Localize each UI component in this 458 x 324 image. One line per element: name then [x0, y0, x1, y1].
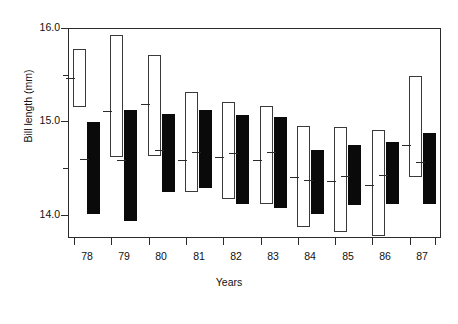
x-tick: [111, 238, 112, 245]
median-marker: [141, 104, 150, 105]
range-bar: [124, 110, 137, 221]
y-axis-title: Bill length (mm): [22, 36, 34, 176]
x-tick: [223, 238, 224, 245]
median-marker: [379, 175, 388, 176]
plot-area: [68, 28, 441, 238]
x-tick: [74, 238, 75, 245]
x-tick: [372, 238, 373, 245]
x-axis-title: Years: [0, 276, 458, 288]
x-tick-label: 84: [295, 250, 325, 262]
x-tick-label: 87: [407, 250, 437, 262]
median-marker: [155, 150, 164, 151]
x-tick-label: 81: [184, 250, 214, 262]
x-tick-label: 83: [258, 250, 288, 262]
median-marker: [290, 177, 299, 178]
x-tick: [298, 238, 299, 245]
range-bar: [423, 133, 436, 205]
range-bar: [274, 117, 287, 208]
x-tick: [410, 238, 411, 245]
range-bar: [372, 130, 385, 236]
range-bar: [236, 115, 249, 205]
range-bar: [148, 55, 161, 156]
median-marker: [416, 162, 425, 163]
median-marker: [178, 160, 187, 161]
median-marker: [229, 153, 238, 154]
range-bar: [87, 122, 100, 213]
median-marker: [365, 185, 374, 186]
x-tick-label: 86: [370, 250, 400, 262]
median-marker: [192, 152, 201, 153]
range-bar: [311, 150, 324, 213]
median-marker: [80, 159, 89, 160]
range-bar: [199, 110, 212, 187]
y-tick-label: 16.0: [16, 21, 60, 33]
y-tick-label: 14.0: [16, 208, 60, 220]
x-tick-label: 82: [221, 250, 251, 262]
range-bar: [162, 114, 175, 192]
x-tick-label: 85: [333, 250, 363, 262]
range-bar: [260, 106, 273, 205]
x-tick-label: 80: [146, 250, 176, 262]
chart-figure: Bill length (mm) 16.015.014.0 7879808182…: [0, 0, 458, 324]
x-tick-label: 79: [109, 250, 139, 262]
median-marker: [341, 176, 350, 177]
range-bar: [348, 145, 361, 206]
range-bar: [110, 35, 123, 157]
range-bar: [386, 142, 399, 205]
range-bar: [185, 92, 198, 193]
median-marker: [117, 160, 126, 161]
range-bar: [222, 102, 235, 199]
x-tick: [149, 238, 150, 245]
x-tick: [186, 238, 187, 245]
x-tick: [335, 238, 336, 245]
median-marker: [327, 181, 336, 182]
median-marker: [253, 160, 262, 161]
median-marker: [66, 78, 75, 79]
median-marker: [215, 157, 224, 158]
y-tick-label: 15.0: [16, 114, 60, 126]
median-marker: [304, 180, 313, 181]
median-marker: [402, 145, 411, 146]
x-tick-label: 78: [72, 250, 102, 262]
median-marker: [267, 152, 276, 153]
median-marker: [103, 111, 112, 112]
x-tick: [435, 238, 436, 245]
range-bar: [334, 127, 347, 232]
x-tick: [261, 238, 262, 245]
